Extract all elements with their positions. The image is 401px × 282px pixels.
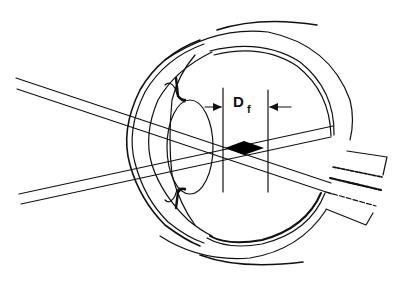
anterior-chamber (170, 55, 195, 225)
eye-diagram: D f (0, 0, 401, 282)
retina-outer (210, 46, 334, 135)
ciliary-top (176, 78, 185, 100)
eye-diagram-svg (0, 0, 401, 282)
df-label: D (233, 94, 244, 109)
optic-nerve-fiber-2 (330, 178, 381, 190)
cornea-inner (132, 44, 204, 243)
retina-inner (214, 51, 331, 136)
df-arrow-left-head (213, 103, 222, 111)
df-arrow-right-head (269, 103, 278, 111)
optic-nerve-bottom (326, 209, 373, 225)
ray-upper-2 (17, 89, 332, 194)
optic-nerve-fiber-3 (326, 192, 376, 206)
df-label-subscript: f (247, 104, 251, 115)
upper-eyelid-arc (217, 21, 317, 30)
optic-nerve-fiber-1 (333, 167, 382, 177)
